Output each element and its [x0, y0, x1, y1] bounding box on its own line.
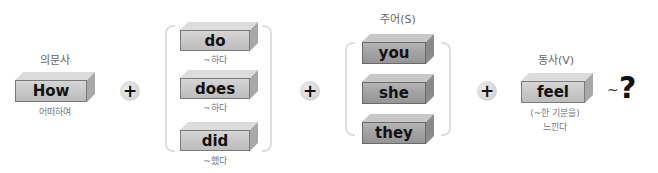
subject-block-they: they	[362, 114, 434, 144]
verb-meaning-line2: 느낀다	[543, 121, 567, 134]
question-word-meaning: 어떠하여	[39, 106, 71, 119]
plus-icon: +	[120, 81, 140, 101]
plus-icon: +	[477, 81, 497, 101]
block-top-face	[362, 114, 434, 122]
auxiliary-meaning: ~하다	[203, 102, 227, 115]
right-bracket	[441, 42, 451, 136]
block-top-face	[180, 122, 258, 130]
verb-meaning-line1: (~한 기분을)	[530, 107, 579, 120]
subject-word-text: they	[362, 122, 426, 144]
auxiliary-block-did: did	[180, 122, 258, 151]
subject-category-label: 주어(S)	[380, 10, 416, 26]
auxiliary-word-text: did	[180, 130, 250, 151]
right-bracket	[262, 25, 272, 152]
block-top-face	[180, 70, 258, 78]
auxiliary-meaning: ~했다	[203, 155, 227, 168]
auxiliary-block-do: do	[180, 22, 258, 51]
block-top-face	[362, 34, 434, 42]
subject-block-she: she	[362, 74, 434, 104]
verb-word-text: feel	[521, 81, 585, 103]
block-top-face	[521, 73, 593, 81]
question-mark-icon: ?	[619, 70, 636, 105]
left-bracket	[345, 42, 355, 136]
question-word-category-label: 의문사	[40, 51, 70, 67]
block-top-face	[180, 22, 258, 30]
block-top-face	[15, 72, 95, 80]
verb-category-label: 동사(V)	[538, 51, 574, 67]
auxiliary-word-text: do	[180, 30, 250, 51]
auxiliary-block-does: does	[180, 70, 258, 99]
question-word-text: How	[15, 80, 87, 102]
plus-icon: +	[300, 81, 320, 101]
subject-word-text: you	[362, 42, 426, 64]
left-bracket	[165, 25, 175, 152]
subject-word-text: she	[362, 82, 426, 104]
verb-block: feel	[521, 73, 593, 103]
subject-block-you: you	[362, 34, 434, 64]
question-word-block: How	[15, 72, 95, 102]
auxiliary-meaning: ~하다	[203, 54, 227, 67]
block-top-face	[362, 74, 434, 82]
auxiliary-word-text: does	[180, 78, 250, 99]
tilde-symbol: ~	[607, 82, 619, 98]
